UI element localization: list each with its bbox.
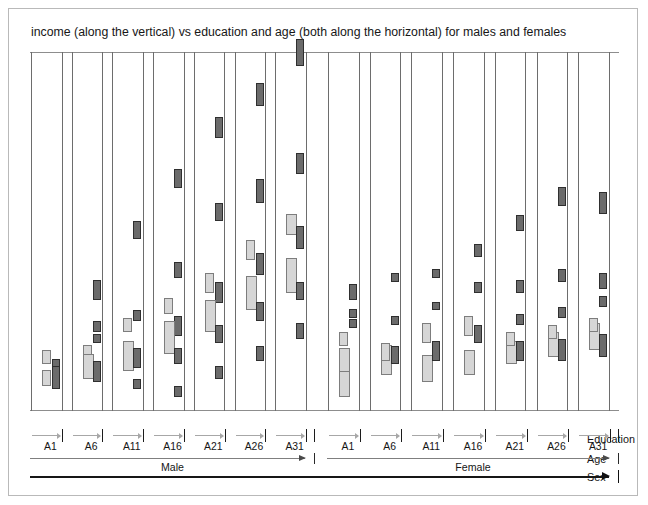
data-mark: [432, 269, 440, 278]
data-mark: [93, 334, 101, 343]
education-segment-arrow: [236, 435, 264, 436]
data-mark: [391, 316, 399, 325]
data-mark: [349, 309, 357, 318]
education-segment-arrow: [329, 435, 358, 436]
education-tick: [314, 429, 315, 442]
education-segment-arrow: [454, 435, 483, 436]
data-mark: [464, 350, 475, 375]
chart-title: income (along the vertical) vs education…: [31, 25, 631, 39]
data-mark: [599, 192, 607, 214]
data-mark: [548, 325, 557, 339]
data-mark: [256, 179, 264, 202]
data-mark: [381, 343, 390, 361]
data-mark: [296, 226, 304, 249]
age-range-endcap: [618, 453, 619, 464]
data-mark: [506, 332, 515, 346]
data-mark: [349, 284, 357, 300]
data-mark: [296, 153, 304, 175]
data-mark: [474, 244, 482, 257]
education-segment-arrow: [276, 435, 304, 436]
nested-axis-block: Education A1A6A11A16A21A26A31A1A6A11A16A…: [30, 429, 630, 491]
data-mark: [133, 310, 141, 321]
education-segment-arrow: [195, 435, 223, 436]
education-segment-arrow: [538, 435, 567, 436]
data-mark: [474, 282, 482, 293]
data-mark: [93, 280, 101, 300]
data-mark: [174, 316, 182, 336]
data-mark: [256, 302, 264, 322]
data-mark: [215, 203, 223, 221]
data-mark: [422, 323, 431, 343]
data-mark: [164, 298, 173, 314]
data-mark: [174, 348, 182, 364]
data-mark: [52, 366, 60, 389]
sex-range-endcap: [618, 470, 619, 483]
data-mark: [42, 370, 51, 386]
data-mark: [558, 269, 566, 282]
data-mark: [123, 318, 132, 332]
data-mark: [215, 282, 223, 304]
data-mark: [516, 341, 524, 361]
data-mark: [133, 221, 141, 239]
education-segment-arrow: [113, 435, 141, 436]
data-mark: [599, 296, 607, 307]
data-mark: [516, 215, 524, 231]
data-mark: [464, 316, 473, 336]
data-mark: [296, 39, 304, 66]
data-mark: [205, 273, 214, 293]
data-mark: [296, 282, 304, 300]
data-mark: [589, 318, 598, 332]
data-mark: [256, 253, 264, 275]
education-segment-arrow: [412, 435, 441, 436]
education-segment-arrow: [496, 435, 525, 436]
figure-frame: income (along the vertical) vs education…: [8, 8, 638, 496]
education-segment-arrow: [32, 435, 60, 436]
data-mark: [93, 321, 101, 332]
sex-range-arrow: [30, 476, 609, 478]
data-mark: [558, 339, 566, 361]
data-mark: [391, 346, 399, 364]
data-mark: [558, 307, 566, 318]
data-mark: [256, 346, 264, 360]
data-mark: [174, 262, 182, 278]
data-mark: [558, 187, 566, 207]
data-mark: [349, 319, 357, 328]
data-mark: [174, 386, 182, 397]
data-mark: [391, 273, 399, 282]
data-mark: [133, 379, 141, 390]
data-mark: [42, 350, 51, 364]
data-mark: [296, 323, 304, 339]
data-mark: [133, 348, 141, 368]
education-segment-arrow: [154, 435, 182, 436]
data-mark: [339, 332, 348, 346]
data-mark: [516, 314, 524, 325]
data-mark: [215, 117, 223, 139]
age-axis-row: Age MaleFemale: [30, 451, 630, 471]
data-mark: [174, 169, 182, 189]
data-mark: [246, 240, 255, 260]
education-segment-arrow: [579, 435, 608, 436]
panel-male-a21: [194, 52, 226, 411]
data-mark: [599, 273, 607, 289]
education-axis-row: Education A1A6A11A16A21A26A31A1A6A11A16A…: [30, 429, 630, 449]
plot-area: [30, 52, 619, 411]
age-range-arrow: [327, 458, 609, 459]
age-range-endcap: [314, 453, 315, 464]
sex-axis-row: Sex: [30, 469, 630, 489]
education-segment-arrow: [73, 435, 101, 436]
data-mark: [474, 325, 482, 343]
panel-female-a31: [578, 52, 610, 411]
data-mark: [93, 361, 101, 383]
education-segment-arrow: [371, 435, 400, 436]
data-mark: [215, 325, 223, 343]
data-mark: [599, 334, 607, 357]
data-mark: [256, 83, 264, 106]
data-mark: [215, 366, 223, 379]
data-mark: [432, 341, 440, 361]
education-tick: [618, 429, 619, 442]
data-mark: [432, 302, 440, 311]
data-mark: [516, 280, 524, 293]
age-range-arrow: [30, 458, 305, 459]
data-mark: [339, 348, 350, 371]
